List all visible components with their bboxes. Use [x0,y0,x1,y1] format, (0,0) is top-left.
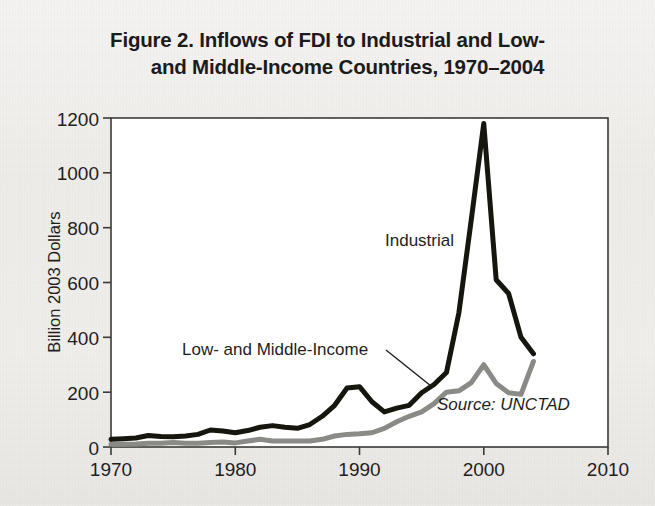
x-tick-label-1990: 1990 [338,459,380,480]
x-axis-ticks [111,447,608,455]
x-tick-label-2000: 2000 [463,459,505,480]
y-tick-label-1200: 1200 [57,109,99,130]
y-axis-title: Billion 2003 Dollars [45,211,63,352]
y-tick-label-600: 600 [67,273,99,294]
y-tick-label-0: 0 [88,438,99,459]
x-tick-label-2010: 2010 [587,459,629,480]
x-tick-label-1980: 1980 [214,459,256,480]
y-tick-label-800: 800 [67,218,99,239]
figure-container: Figure 2. Inflows of FDI to Industrial a… [0,0,655,506]
x-tick-label-1970: 1970 [90,459,132,480]
y-tick-label-1000: 1000 [57,163,99,184]
x-axis-tick-labels: 1970 1980 1990 2000 2010 [90,459,629,480]
series-label-industrial: Industrial [385,231,454,250]
chart-plot-area: 1200 1000 800 600 400 200 0 Billion 2003… [0,0,655,506]
line-chart: 1200 1000 800 600 400 200 0 Billion 2003… [0,0,655,506]
y-tick-label-400: 400 [67,328,99,349]
y-axis-tick-labels: 1200 1000 800 600 400 200 0 [57,109,99,459]
series-label-low-and-middle-income: Low- and Middle-Income [182,340,368,359]
y-axis-ticks [103,118,111,447]
y-tick-label-200: 200 [67,383,99,404]
source-note: Source: UNCTAD [437,395,570,414]
